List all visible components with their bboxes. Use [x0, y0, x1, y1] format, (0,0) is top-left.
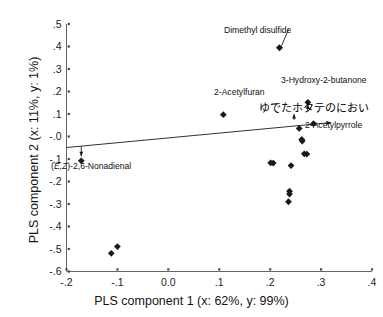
y-tick-mark	[68, 225, 70, 227]
x-tick-mark	[269, 268, 271, 270]
x-tick-label: .1	[204, 276, 234, 288]
data-point	[288, 162, 295, 169]
y-tick-label: -.2	[36, 175, 62, 187]
y-tick-label: -.3	[36, 198, 62, 210]
y-tick-label: .2	[36, 85, 62, 97]
y-tick-mark	[68, 113, 70, 115]
y-tick-label: -.5	[36, 243, 62, 255]
y-tick-label: .3	[36, 63, 62, 75]
data-point	[285, 198, 292, 205]
y-tick-mark	[68, 203, 70, 205]
y-tick-label: -.0	[36, 130, 62, 142]
y-axis-title: PLS component 2 (x: 11%, y: 1%)	[27, 20, 41, 280]
annotation-ez-2-6-nonadienal: (E,Z)-2,6-Nonadienal	[51, 162, 131, 171]
annotation-3-hydroxy-2-butanone: 3-Hydroxy-2-butanone	[281, 76, 367, 85]
x-tick-mark	[167, 268, 169, 270]
y-tick-label: .4	[36, 40, 62, 52]
leader-dimethyl-disulfide-arrowhead	[279, 46, 283, 51]
y-tick-mark	[68, 248, 70, 250]
annotation-boiled-scallop-odor-jp: ゆでたホタテのにおい	[259, 103, 369, 114]
x-tick-mark	[218, 268, 220, 270]
y-tick-mark	[68, 90, 70, 92]
leader-2-acetylfuran-arrowhead	[292, 114, 296, 119]
x-tick-mark	[320, 268, 322, 270]
annotation-2-acetylfuran: 2-Acetylfuran	[214, 88, 265, 97]
x-tick-label: -.1	[102, 276, 132, 288]
data-point	[114, 243, 121, 250]
x-tick-label: 0.0	[153, 276, 183, 288]
pls-biplot-figure: PLS component 1 (x: 62%, y: 99%) PLS com…	[0, 0, 383, 317]
data-point	[108, 250, 115, 257]
y-tick-mark	[68, 23, 70, 25]
x-axis-title: PLS component 1 (x: 62%, y: 99%)	[0, 294, 383, 308]
y-tick-mark	[68, 68, 70, 70]
y-tick-mark	[68, 270, 70, 272]
data-point	[220, 111, 227, 118]
axis-lines	[67, 24, 373, 272]
annotation-2-acetylpyrrole: 2-Acetylpyrrole	[305, 121, 362, 130]
x-tick-label: .2	[255, 276, 285, 288]
x-tick-mark	[371, 268, 373, 270]
annotation-dimethyl-disulfide: Dimethyl disulfide	[224, 26, 291, 35]
y-tick-label: .1	[36, 108, 62, 120]
y-tick-label: .5	[36, 18, 62, 30]
loading-vector-line	[67, 123, 332, 148]
y-tick-mark	[68, 45, 70, 47]
x-tick-label: .4	[357, 276, 383, 288]
annotation-leader-lines	[67, 30, 332, 157]
y-tick-mark	[68, 180, 70, 182]
y-tick-mark	[68, 158, 70, 160]
y-tick-label: -.4	[36, 220, 62, 232]
leader-ez-2-6-nonadienal-arrowhead	[79, 152, 83, 157]
x-tick-label: .3	[306, 276, 336, 288]
x-tick-mark	[116, 268, 118, 270]
tick-marks	[65, 23, 373, 273]
y-tick-mark	[68, 135, 70, 137]
x-tick-mark	[65, 268, 67, 270]
x-tick-label: -.2	[52, 276, 82, 288]
